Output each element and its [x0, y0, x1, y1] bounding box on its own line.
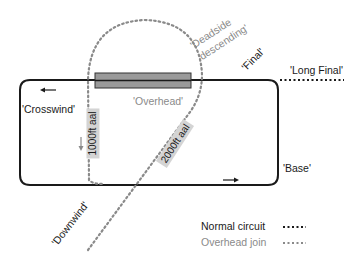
arrow-down-icon [79, 137, 84, 151]
legend-normal-circuit: Normal circuit [201, 221, 265, 232]
label-base: 'Base' [283, 163, 311, 174]
label-overhead: 'Overhead' [133, 96, 183, 107]
label-crosswind: 'Crosswind' [22, 104, 75, 115]
altitude-tag-1000: 1000ft aal [86, 109, 99, 159]
label-long-final: 'Long Final' [290, 65, 343, 76]
arrow-right-icon [223, 178, 239, 183]
arrow-left-icon [40, 88, 56, 93]
legend-overhead-join: Overhead join [201, 237, 266, 248]
